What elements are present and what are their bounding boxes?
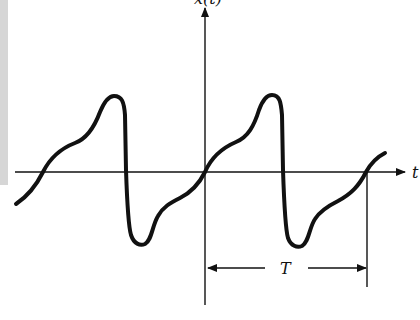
x-axis-label: t (412, 163, 419, 182)
y-axis-label: x(t) (194, 0, 222, 8)
left-edge-strip (0, 0, 8, 185)
waveform-curve (16, 95, 385, 247)
periodic-signal-diagram: x(t) t T (0, 0, 420, 320)
period-label: T (280, 259, 292, 278)
